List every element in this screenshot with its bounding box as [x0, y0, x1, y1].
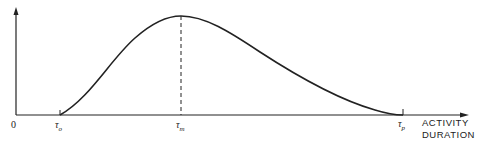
tick-label-t-p: τp [398, 118, 405, 132]
x-axis-title-line1: ACTIVITY [422, 117, 475, 129]
activity-duration-chart: 0 τo τm τp ACTIVITY DURATION [0, 0, 483, 146]
x-axis-title: ACTIVITY DURATION [422, 117, 475, 141]
chart-canvas [0, 0, 483, 146]
subscript-p: p [402, 124, 406, 132]
tick-label-t-m: τm [176, 119, 185, 133]
distribution-curve [60, 16, 403, 115]
subscript-m: m [180, 125, 185, 133]
x-axis-title-line2: DURATION [422, 129, 475, 141]
subscript-o: o [59, 125, 63, 133]
y-axis-arrow-icon [14, 7, 19, 15]
tick-label-t-o: τo [55, 119, 62, 133]
origin-label: 0 [11, 119, 16, 130]
